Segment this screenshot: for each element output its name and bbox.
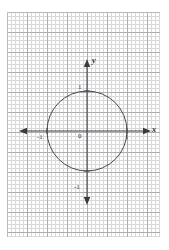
x-axis-right-arrow-icon bbox=[143, 128, 151, 134]
y-tick-label-positive-one: 1 bbox=[78, 84, 82, 91]
y-tick-label-negative-one: -1 bbox=[74, 184, 80, 191]
y-axis-down-arrow-icon bbox=[84, 197, 90, 205]
origin-label: 0 bbox=[78, 133, 82, 140]
plot-canvas bbox=[0, 0, 169, 250]
x-axis-left-arrow-icon bbox=[19, 128, 27, 134]
x-tick-label-negative-one: -1 bbox=[37, 134, 43, 141]
y-axis-label: y bbox=[92, 57, 96, 65]
x-axis-label: x bbox=[152, 126, 156, 134]
y-axis-up-arrow-icon bbox=[84, 59, 90, 67]
x-tick-label-positive-one: 1 bbox=[125, 134, 129, 141]
graph-figure: y x 1 -1 -1 1 0 bbox=[0, 0, 169, 250]
